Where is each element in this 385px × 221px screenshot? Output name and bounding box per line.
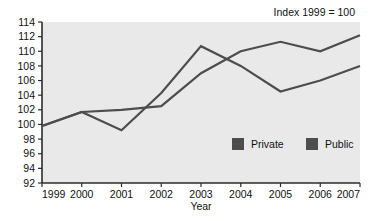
y-tick-label: 114 <box>18 16 35 28</box>
y-tick-label: 98 <box>23 133 35 145</box>
y-tick-label: 102 <box>17 103 35 115</box>
x-tick-label: 2000 <box>70 188 94 200</box>
index-annotation: Index 1999 = 100 <box>274 6 356 18</box>
y-tick-label: 106 <box>17 74 35 86</box>
x-tick-label: 2006 <box>309 188 333 200</box>
x-tick-label: 2005 <box>269 188 293 200</box>
x-tick-label: 2007 <box>337 188 361 200</box>
y-tick-label: 112 <box>18 30 35 42</box>
chart-canvas: 92949698100102104106108110112114 1999200… <box>0 0 385 221</box>
x-tick-label: 2004 <box>229 188 253 200</box>
y-tick-label: 110 <box>18 45 35 57</box>
x-tick-label: 1999 <box>42 188 66 200</box>
x-axis-tick-labels: 199920002001200220032004200520062007 <box>42 188 360 200</box>
legend-swatch-public <box>306 138 318 150</box>
legend-label-public: Public <box>325 138 354 150</box>
x-tick-label: 2003 <box>189 188 213 200</box>
x-axis-title: Year <box>190 200 212 212</box>
legend-swatch-private <box>232 138 244 150</box>
y-tick-label: 96 <box>23 147 35 159</box>
x-tick-label: 2001 <box>110 188 134 200</box>
y-tick-label: 94 <box>23 162 35 174</box>
legend-item-public[interactable]: Public <box>306 138 354 150</box>
legend-label-private: Private <box>251 138 284 150</box>
y-tick-label: 108 <box>17 60 35 72</box>
line-chart: 92949698100102104106108110112114 1999200… <box>0 0 385 221</box>
x-tick-label: 2002 <box>150 188 174 200</box>
y-tick-label: 100 <box>17 118 35 130</box>
y-tick-label: 92 <box>23 177 35 189</box>
legend-item-private[interactable]: Private <box>232 138 284 150</box>
y-tick-label: 104 <box>17 89 35 101</box>
